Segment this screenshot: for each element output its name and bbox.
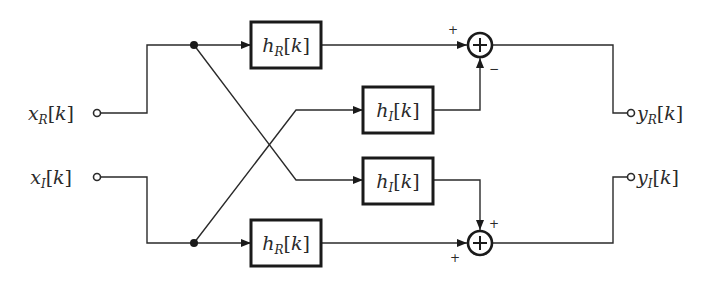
svg-text:hR[k]: hR[k]: [262, 232, 310, 257]
wire-hI-lower-to-sum: [433, 180, 480, 230]
wire-hI-upper-to-sum: [433, 58, 480, 110]
wire-sum-top-to-yR: [493, 45, 627, 113]
sign-bottom-top: +: [489, 217, 499, 231]
label-yR: yR[k]: [636, 102, 683, 127]
sign-top-bottom: −: [489, 62, 499, 76]
junction-dot-top: [190, 41, 198, 49]
block-hR-top: hR[k]: [251, 22, 321, 68]
summer-top: [468, 33, 492, 57]
arrow-head-icon: [476, 220, 484, 230]
arrow-head-icon: [476, 58, 484, 68]
arrow-head-icon: [457, 239, 467, 247]
svg-text:hI[k]: hI[k]: [376, 99, 419, 124]
label-xI: xI[k]: [30, 166, 72, 191]
block-hI-lower: hI[k]: [363, 158, 433, 204]
input-xR-wire: [101, 45, 251, 113]
svg-text:hR[k]: hR[k]: [262, 34, 310, 59]
block-hR-bottom: hR[k]: [251, 220, 321, 266]
input-xI-wire: [101, 177, 251, 243]
sign-bottom-left: +: [450, 251, 460, 265]
label-yI: yI[k]: [636, 166, 679, 191]
wire-sum-bottom-to-yI: [493, 177, 627, 243]
output-terminal-yI: [628, 174, 635, 181]
block-diagram: hR[k] hI[k] hI[k] hR[k] + − + +: [0, 0, 707, 285]
input-terminal-xI: [94, 174, 101, 181]
junction-dot-bottom: [190, 239, 198, 247]
arrow-head-icon: [457, 41, 467, 49]
sign-top-left: +: [448, 23, 458, 37]
block-hI-upper: hI[k]: [363, 87, 433, 133]
output-terminal-yR: [628, 110, 635, 117]
svg-text:hI[k]: hI[k]: [376, 170, 419, 195]
label-xR: xR[k]: [28, 102, 74, 127]
summer-bottom: [468, 231, 492, 255]
input-terminal-xR: [94, 110, 101, 117]
